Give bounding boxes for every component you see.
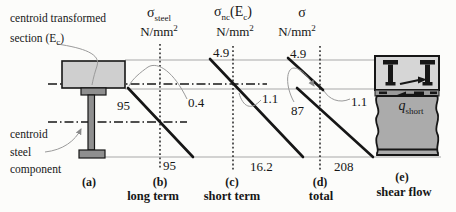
unit-base: N/mm bbox=[216, 24, 249, 39]
sigma-steel-subscript: steel bbox=[155, 13, 172, 23]
long-term-axis-unit: N/mm2 bbox=[140, 25, 178, 38]
long-term-top-value: 95 bbox=[117, 99, 130, 112]
sigma-symbol: σ bbox=[214, 4, 222, 19]
caption-long-term: long term bbox=[127, 190, 179, 203]
unit-exponent: 2 bbox=[249, 23, 254, 33]
panel-tag-a: (a) bbox=[82, 176, 96, 188]
panel-tag-b: (b) bbox=[153, 176, 168, 188]
steel-centroid-leader bbox=[45, 129, 81, 152]
centroid-transformed-label-pre: section (E bbox=[10, 32, 56, 44]
short-term-axis-title: σnc(Ec) bbox=[214, 5, 252, 19]
total-slab-bottom-value: 1.1 bbox=[351, 95, 367, 108]
total-87-leader bbox=[288, 68, 314, 102]
total-axis-title: σ bbox=[298, 6, 306, 20]
section-a-web bbox=[88, 95, 95, 150]
unit-base: N/mm bbox=[140, 24, 173, 39]
sigma-symbol: σ bbox=[298, 5, 306, 20]
caption-shear-flow: shear flow bbox=[377, 186, 432, 199]
total-top-value: 4.9 bbox=[290, 47, 306, 60]
ec-paren-close: ) bbox=[247, 4, 252, 19]
section-a-bottom-flange bbox=[79, 150, 105, 158]
caption-total: total bbox=[309, 190, 333, 203]
long-term-concrete-value: 0.4 bbox=[188, 96, 204, 109]
ec-paren-open: (E bbox=[230, 4, 243, 19]
section-a-concrete-slab bbox=[62, 61, 125, 88]
q-symbol: q bbox=[399, 98, 406, 113]
short-term-slab-bottom-value: 1.1 bbox=[262, 92, 278, 105]
total-steel-top-value: 87 bbox=[291, 104, 304, 117]
centroid-steel-label-line3: component bbox=[10, 164, 61, 176]
unit-exponent: 2 bbox=[173, 23, 178, 33]
long-term-axis-title: σsteel bbox=[147, 6, 171, 20]
unit-base: N/mm bbox=[278, 24, 311, 39]
short-term-top-value: 4.9 bbox=[213, 46, 229, 59]
q-short-subscript: short bbox=[406, 106, 424, 116]
centroid-transformed-label-close: ) bbox=[60, 32, 64, 44]
panel-tag-e: (e) bbox=[395, 171, 408, 183]
shear-flow-q-label: qshort bbox=[399, 99, 424, 113]
composite-beam-stress-diagram: centroid transformed section (Ec) centro… bbox=[0, 0, 456, 212]
total-axis-unit: N/mm2 bbox=[278, 25, 316, 38]
sigma-nc-subscript: nc bbox=[222, 12, 231, 22]
panel-tag-c: (c) bbox=[225, 176, 238, 188]
short-term-stress-line bbox=[210, 59, 303, 157]
short-term-bottom-value: 16.2 bbox=[250, 160, 273, 173]
panel-tag-d: (d) bbox=[313, 176, 328, 188]
long-term-bottom-value: 95 bbox=[163, 159, 176, 172]
centroid-transformed-label-line2: section (Ec) bbox=[10, 33, 64, 45]
sigma-symbol: σ bbox=[147, 5, 155, 20]
caption-short-term: short term bbox=[204, 190, 261, 203]
centroid-steel-label-line2: steel bbox=[10, 147, 31, 159]
total-concrete-stress-line bbox=[288, 58, 323, 90]
long-term-04-leader bbox=[129, 65, 187, 99]
centroid-transformed-label-line1: centroid transformed bbox=[10, 13, 106, 25]
total-bottom-value: 208 bbox=[334, 160, 354, 173]
short-term-axis-unit: N/mm2 bbox=[216, 25, 254, 38]
total-11-leader bbox=[324, 91, 350, 101]
unit-exponent: 2 bbox=[311, 23, 316, 33]
section-a-top-flange bbox=[81, 88, 106, 95]
centroid-steel-label-line1: centroid bbox=[10, 129, 48, 141]
